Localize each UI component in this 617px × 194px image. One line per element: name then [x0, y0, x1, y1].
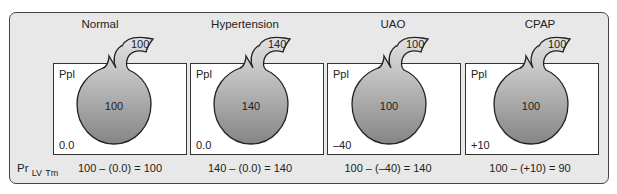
aortic-pressure: 100 — [131, 38, 149, 50]
pleural-pressure: +10 — [471, 139, 490, 151]
transmural-formula: 100 – (–40) = 140 — [323, 162, 453, 174]
transmural-formula: 100 – (+10) = 90 — [465, 162, 595, 174]
panel-normal: Normal Ppl 0.0 100 100 100 – (0.0) = 100 — [25, 0, 175, 194]
panel-cpap: CPAP Ppl +10 100 100 100 – (+10) = 90 — [450, 0, 600, 194]
lv-pressure: 100 — [94, 100, 134, 112]
aortic-pressure: 100 — [548, 38, 566, 50]
ppl-label: Ppl — [333, 68, 349, 80]
transmural-formula: 140 – (0.0) = 140 — [185, 162, 315, 174]
panel-title: Normal — [25, 18, 175, 30]
pleural-pressure: –40 — [333, 139, 351, 151]
aortic-pressure: 140 — [268, 38, 286, 50]
panel-title: CPAP — [465, 18, 615, 30]
pleural-pressure: 0.0 — [59, 139, 74, 151]
lv-pressure: 100 — [369, 100, 409, 112]
pleural-pressure: 0.0 — [196, 139, 211, 151]
panel-title: Hypertension — [170, 18, 320, 30]
panel-title: UAO — [318, 18, 468, 30]
ppl-label: Ppl — [471, 68, 487, 80]
aortic-pressure: 100 — [406, 38, 424, 50]
panel-uao: UAO Ppl –40 100 100 100 – (–40) = 140 — [305, 0, 455, 194]
ppl-label: Ppl — [196, 68, 212, 80]
lv-pressure: 140 — [231, 100, 271, 112]
ppl-label: Ppl — [59, 68, 75, 80]
panel-hypertension: Hypertension Ppl 0.0 140 140 140 – (0.0)… — [165, 0, 315, 194]
lv-pressure: 100 — [511, 100, 551, 112]
